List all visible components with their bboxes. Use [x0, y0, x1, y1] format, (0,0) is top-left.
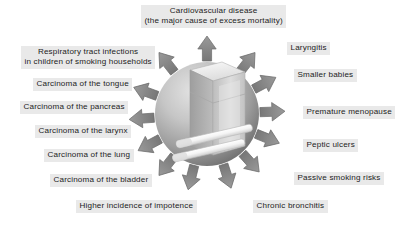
risk-label-carcinoma-larynx: Carcinoma of the larynx	[35, 125, 131, 138]
risk-label-carcinoma-lung: Carcinoma of the lung	[44, 149, 134, 162]
risk-label-premature-menopause: Premature menopause	[303, 106, 395, 119]
risk-label-respiratory-tract-infections: Respiratory tract infections in children…	[21, 46, 155, 69]
risk-label-cardiovascular-disease: Cardiovascular disease (the major cause …	[141, 5, 286, 28]
risk-label-peptic-ulcers: Peptic ulcers	[303, 139, 358, 152]
risk-label-carcinoma-bladder: Carcinoma of the bladder	[50, 174, 152, 187]
risk-label-laryngitis: Laryngitis	[287, 42, 330, 55]
smoking-risks-diagram: Cardiovascular disease (the major cause …	[0, 0, 415, 228]
risk-label-passive-smoking-risks: Passive smoking risks	[294, 172, 384, 185]
risk-label-carcinoma-pancreas: Carcinoma of the pancreas	[20, 101, 128, 114]
risk-label-carcinoma-tongue: Carcinoma of the tongue	[33, 78, 132, 91]
risk-label-smaller-babies: Smaller babies	[294, 69, 357, 82]
risk-label-higher-incidence-impotence: Higher incidence of impotence	[76, 200, 197, 213]
risk-label-chronic-bronchitis: Chronic bronchitis	[253, 200, 328, 213]
